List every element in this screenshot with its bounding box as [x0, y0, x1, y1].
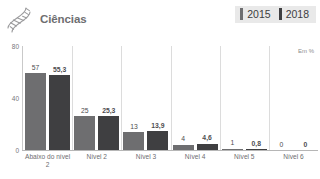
bar-group-nivel-3: 13 13,9 — [121, 46, 170, 150]
bar-rect-2015 — [25, 73, 46, 150]
bar-rect-2015 — [222, 149, 243, 150]
bar-groups: 57 55,3 25 25,3 — [23, 46, 318, 150]
bar-rect-2015 — [74, 116, 95, 150]
bar-rect-2018 — [246, 149, 267, 150]
bar-2018[interactable]: 0 — [295, 46, 316, 150]
bar-value-2015: 0 — [280, 142, 284, 149]
bar-value-2018: 0 — [304, 142, 308, 149]
bar-group-nivel-5: 1 0,8 — [220, 46, 269, 150]
bar-value-2018: 25,3 — [102, 108, 115, 115]
y-tick-0: 0 — [15, 147, 19, 154]
bar-2015[interactable]: 4 — [173, 46, 194, 150]
bar-2018[interactable]: 13,9 — [147, 46, 168, 150]
bar-rect-2018 — [49, 75, 70, 150]
legend-item-2015[interactable]: 2015 — [240, 8, 270, 20]
dna-helix-icon — [4, 2, 38, 36]
page-title: Ciências — [40, 13, 87, 25]
category-label-nivel-2: Nível 2 — [72, 153, 121, 169]
bar-rect-2018 — [147, 131, 168, 150]
x-axis-line — [22, 150, 318, 151]
chart-legend: 2015 2018 — [235, 6, 316, 23]
legend-item-2018[interactable]: 2018 — [279, 8, 309, 20]
category-label-abaixo-do-nivel-2: Abaixo do nível 2 — [23, 153, 72, 169]
bar-rect-2015 — [123, 132, 144, 150]
bar-value-2015: 57 — [32, 65, 40, 72]
bar-2015[interactable]: 25 — [74, 46, 95, 150]
legend-label-2015: 2015 — [247, 9, 270, 20]
bar-2018[interactable]: 55,3 — [49, 46, 70, 150]
bar-value-2018: 0,8 — [252, 141, 261, 148]
bar-group-nivel-2: 25 25,3 — [72, 46, 121, 150]
bar-value-2015: 4 — [181, 136, 185, 143]
bar-2015[interactable]: 57 — [25, 46, 46, 150]
bar-2018[interactable]: 0,8 — [246, 46, 267, 150]
bar-2015[interactable]: 13 — [123, 46, 144, 150]
bar-value-2015: 13 — [130, 124, 138, 131]
y-tick-40: 40 — [12, 95, 19, 102]
bar-rect-2018 — [197, 144, 218, 150]
bar-rect-2018 — [98, 116, 119, 150]
bar-value-2018: 13,9 — [151, 123, 164, 130]
chart-header: Ciências 2015 2018 — [0, 0, 320, 38]
bar-value-2015: 1 — [230, 140, 234, 147]
y-tick-80: 80 — [12, 43, 19, 50]
bar-2015[interactable]: 0 — [271, 46, 292, 150]
bar-group-nivel-4: 4 4,6 — [171, 46, 220, 150]
bar-chart: Em % 80 40 0 57 55,3 25 — [0, 38, 320, 179]
bar-2018[interactable]: 4,6 — [197, 46, 218, 150]
x-axis-categories: Abaixo do nível 2 Nível 2 Nível 3 Nível … — [23, 153, 318, 169]
plot-area: 57 55,3 25 25,3 — [23, 46, 318, 150]
category-label-nivel-5: Nível 5 — [220, 153, 269, 169]
category-label-nivel-3: Nível 3 — [121, 153, 170, 169]
bar-group-nivel-6: 0 0 — [269, 46, 318, 150]
legend-swatch-2018 — [279, 8, 282, 20]
bar-value-2015: 25 — [81, 108, 89, 115]
bar-group-abaixo-do-nivel-2: 57 55,3 — [23, 46, 72, 150]
bar-value-2018: 4,6 — [202, 135, 211, 142]
title-block: Ciências — [4, 2, 87, 36]
bar-2018[interactable]: 25,3 — [98, 46, 119, 150]
bar-value-2018: 55,3 — [53, 67, 66, 74]
legend-label-2018: 2018 — [286, 9, 309, 20]
bar-2015[interactable]: 1 — [222, 46, 243, 150]
category-label-nivel-4: Nível 4 — [171, 153, 220, 169]
legend-swatch-2015 — [240, 8, 243, 20]
bar-rect-2015 — [173, 145, 194, 150]
y-axis: 80 40 0 — [0, 46, 22, 150]
category-label-nivel-6: Nível 6 — [269, 153, 318, 169]
